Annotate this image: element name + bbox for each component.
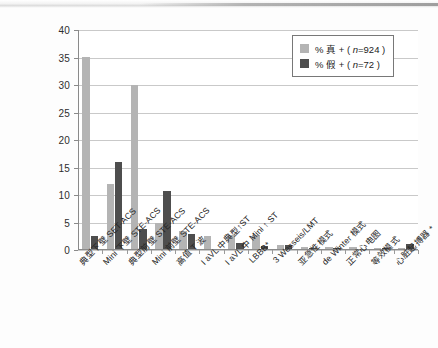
legend-swatch-true-positive — [300, 44, 309, 53]
bar — [82, 57, 90, 250]
bar — [107, 184, 115, 249]
x-tick-mark — [345, 250, 346, 254]
bar — [228, 235, 236, 249]
scan-page-edge-shadow — [140, 3, 438, 6]
x-tick-mark — [418, 250, 419, 254]
chart-figure: 0510152025303540 典型下壁 SET-ACSMini 下壁 STE… — [0, 0, 438, 348]
y-tick-label-20: 20 — [58, 135, 70, 146]
bar-group — [199, 30, 223, 249]
y-tick-label-35: 35 — [58, 52, 70, 63]
bar — [115, 162, 123, 249]
legend-swatch-false-positive — [300, 59, 309, 68]
bar-group — [127, 30, 151, 249]
legend-label-true-positive: % 真 + ( n=924 ) — [315, 42, 385, 56]
bar — [188, 234, 196, 249]
bar-group — [224, 30, 248, 249]
bar-group — [394, 30, 418, 249]
bar — [252, 235, 260, 249]
chart-legend: % 真 + ( n=924 ) % 假 + ( n=72 ) — [292, 35, 394, 77]
x-tick-mark — [394, 250, 395, 254]
y-tick-label-30: 30 — [58, 80, 70, 91]
bar-group — [102, 30, 126, 249]
x-tick-mark — [248, 250, 249, 254]
legend-entry-false-positive: % 假 + ( n=72 ) — [300, 56, 385, 71]
x-tick-mark — [102, 250, 103, 254]
x-tick-mark — [321, 250, 322, 254]
bar — [163, 191, 171, 249]
x-tick-mark — [127, 250, 128, 254]
bar-group — [248, 30, 272, 249]
x-tick-mark — [151, 250, 152, 254]
legend-label-false-positive: % 假 + ( n=72 ) — [315, 57, 380, 71]
x-tick-mark — [272, 250, 273, 254]
x-axis-line — [78, 249, 418, 250]
x-tick-mark — [369, 250, 370, 254]
bar-group — [151, 30, 175, 249]
y-tick-label-25: 25 — [58, 107, 70, 118]
bar — [155, 223, 163, 249]
y-tick-label-5: 5 — [64, 217, 70, 228]
bar — [91, 236, 99, 249]
x-tick-mark — [297, 250, 298, 254]
x-tick-mark — [175, 250, 176, 254]
bar-group — [78, 30, 102, 249]
x-tick-mark — [224, 250, 225, 254]
bar — [204, 236, 212, 249]
bar — [139, 229, 147, 249]
y-tick-label-10: 10 — [58, 190, 70, 201]
legend-entry-true-positive: % 真 + ( n=924 ) — [300, 41, 385, 56]
y-axis-line — [78, 30, 79, 250]
y-tick-label-15: 15 — [58, 162, 70, 173]
x-tick-mark — [199, 250, 200, 254]
bar — [179, 231, 187, 249]
bar-group — [175, 30, 199, 249]
y-tick-label-40: 40 — [58, 25, 70, 36]
y-tick-label-0: 0 — [64, 245, 70, 256]
y-tick-mark-0 — [74, 250, 78, 251]
bar — [131, 85, 139, 249]
